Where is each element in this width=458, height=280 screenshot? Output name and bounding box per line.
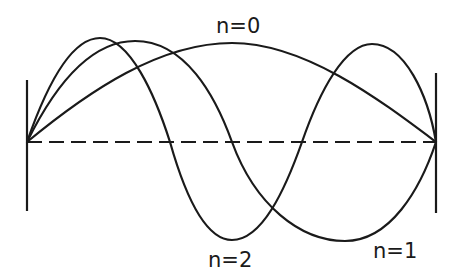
mode-n2-label: n=2	[208, 248, 252, 272]
standing-wave-diagram: n=0 n=1 n=2	[0, 0, 458, 280]
mode-n1-curve	[27, 41, 436, 241]
mode-n0-label: n=0	[216, 14, 260, 38]
mode-n1-label: n=1	[373, 239, 417, 263]
